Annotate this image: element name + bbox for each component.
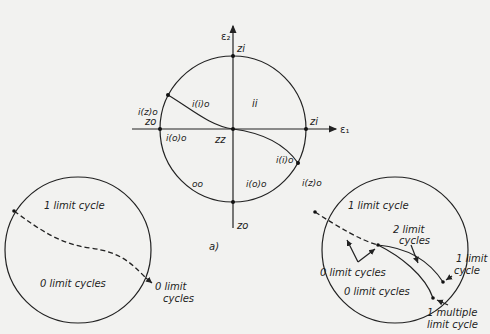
diagram-canvas: ε₁ ε₂ zi zi zo zo zz i(z)o i(z)o i(i)o i… (0, 0, 490, 334)
region-upper-left-inner: i(i)o (192, 99, 210, 109)
right-dashed-boundary (315, 212, 378, 245)
label-right: zi (309, 116, 318, 127)
region-right-sliver: i(i)o (276, 155, 294, 165)
point-left (158, 127, 162, 131)
label-left: zo (144, 116, 156, 127)
point-lower-right (296, 161, 300, 165)
label-bottom: zo (236, 220, 248, 231)
left-callout-line2: cycles (163, 293, 194, 304)
right-two-cycles-line1: 2 limit (393, 224, 426, 235)
label-top: zi (236, 43, 245, 54)
label-upper-left: i(z)o (138, 107, 158, 117)
region-left-sliver: i(o)o (166, 133, 187, 143)
left-limit-cycle-diagram: 1 limit cycle 0 limit cycles 0 limit cyc… (5, 177, 194, 323)
right-one-cycle-line2: cycle (454, 265, 480, 276)
right-circle (322, 177, 468, 323)
right-one-cycle-line1: 1 limit (456, 253, 489, 264)
region-lower-left: oo (192, 179, 204, 189)
label-lower-right: i(z)o (302, 178, 322, 188)
left-lower-region: 0 limit cycles (40, 278, 106, 289)
point-top (231, 54, 235, 58)
region-lower-right: i(o)o (246, 179, 267, 189)
point-right (304, 127, 308, 131)
right-dashed-region-label: 0 limit cycles (320, 267, 386, 278)
epsilon1-label: ε₁ (340, 124, 349, 135)
left-upper-region: 1 limit cycle (44, 200, 105, 211)
right-upper-region: 1 limit cycle (348, 200, 409, 211)
right-two-cycles-line2: cycles (399, 235, 430, 246)
region-upper-right: ii (252, 98, 258, 109)
point-bottom (231, 200, 235, 204)
right-multiple-line2: limit cycle (427, 319, 478, 330)
epsilon2-label: ε₂ (221, 31, 230, 42)
right-lower-region: 0 limit cycles (344, 286, 410, 297)
right-limit-cycle-diagram: 1 limit cycle 2 limit cycles 0 limit cyc… (313, 177, 488, 330)
point-upper-left (166, 93, 170, 97)
caption: a) (209, 241, 219, 252)
right-multiple-line1: 1 multiple (427, 307, 477, 318)
main-parameter-diagram: ε₁ ε₂ zi zi zo zo zz i(z)o i(z)o i(i)o i… (132, 26, 349, 252)
left-callout-line1: 0 limit (155, 281, 188, 292)
left-dashed-boundary (14, 211, 146, 278)
label-origin: zz (214, 134, 226, 145)
left-circle (5, 177, 151, 323)
point-origin (231, 127, 235, 131)
